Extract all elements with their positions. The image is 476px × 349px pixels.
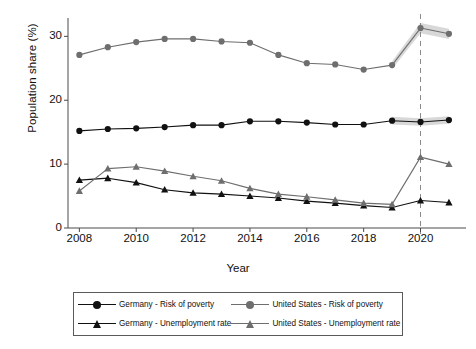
data-point-marker [105,44,111,50]
data-point-marker [361,66,367,72]
legend-marker-triangle-icon [78,319,116,329]
data-point-marker [304,60,310,66]
legend-label: Germany - Risk of poverty [119,300,214,309]
legend-circle-icon [93,301,101,309]
data-point-marker [218,122,224,128]
x-tick-labels: 2008201020122014201620182020 [0,232,476,250]
data-point-marker [417,25,423,31]
y-tick-labels: 3020100 [36,0,62,349]
data-point-marker [133,125,139,131]
data-point-marker [275,118,281,124]
x-tick-label: 2008 [59,232,99,244]
x-tick-label: 2012 [173,232,213,244]
x-tick-label: 2020 [401,232,441,244]
chart-figure: Population share (%) Year 3020100 200820… [0,0,476,349]
legend-entry-us-unemployment[interactable]: United States - Unemployment rate [231,319,400,329]
data-point-marker [332,61,338,67]
legend-entry-germany-unemployment[interactable]: Germany - Unemployment rate [78,319,231,329]
legend-entry-germany-poverty[interactable]: Germany - Risk of poverty [78,300,231,310]
x-axis-title: Year [0,262,476,274]
legend-triangle-icon [93,320,101,328]
data-point-marker [76,52,82,58]
data-point-marker [162,124,168,130]
data-point-marker [133,39,139,45]
legend-marker-circle-icon [78,300,116,310]
legend-triangle-icon [246,320,254,328]
legend-marker-triangle-icon [231,319,269,329]
data-point-marker [332,121,338,127]
y-tick-label: 10 [36,157,62,169]
confidence-band-layer [392,23,449,126]
data-point-marker [76,128,82,134]
data-point-marker [389,118,395,124]
y-tick-label: 20 [36,93,62,105]
chart-legend: Germany - Risk of poverty United States … [73,292,403,336]
data-point-marker [304,119,310,125]
legend-circle-icon [246,301,254,309]
data-point-marker [247,118,253,124]
x-tick-label: 2018 [344,232,384,244]
data-point-marker [361,121,367,127]
x-tick-label: 2014 [230,232,270,244]
data-point-marker [417,153,424,160]
data-point-marker [417,119,423,125]
legend-label: United States - Unemployment rate [272,319,400,328]
data-point-marker [105,126,111,132]
data-point-marker [190,36,196,42]
legend-marker-circle-icon [231,300,269,310]
x-tick-label: 2016 [287,232,327,244]
data-point-marker [190,122,196,128]
data-point-marker [446,31,452,37]
legend-entry-us-poverty[interactable]: United States - Risk of poverty [231,300,400,310]
data-point-marker [162,36,168,42]
y-tick-label: 30 [36,29,62,41]
data-point-marker [446,117,452,123]
data-point-marker [275,52,281,58]
x-tick-label: 2010 [116,232,156,244]
data-point-marker [389,62,395,68]
legend-label: Germany - Unemployment rate [119,319,231,328]
data-point-marker [247,40,253,46]
legend-label: United States - Risk of poverty [272,300,383,309]
data-point-marker [218,38,224,44]
